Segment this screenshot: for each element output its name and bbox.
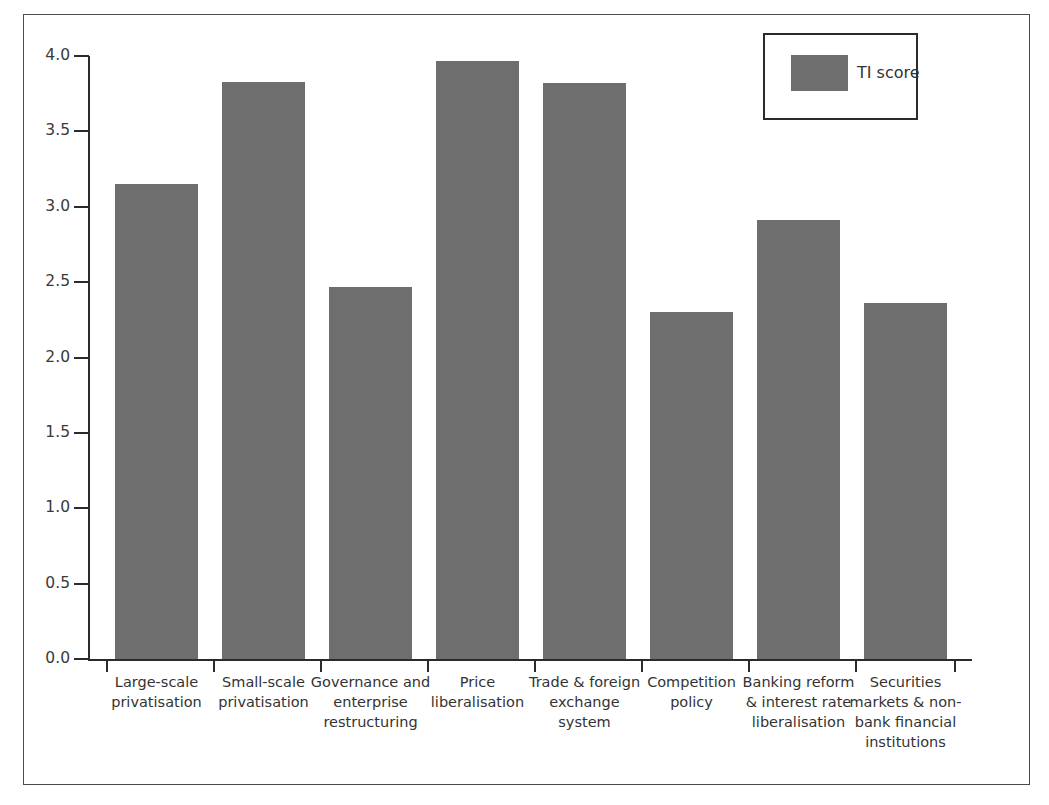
y-axis-tick — [74, 357, 89, 359]
x-axis-tick — [320, 659, 322, 672]
y-axis-tick — [74, 281, 89, 283]
y-axis-tick — [74, 658, 89, 660]
x-axis-tick — [427, 659, 429, 672]
x-axis-tick — [641, 659, 643, 672]
x-axis-category-label: Competitionpolicy — [632, 672, 752, 712]
y-axis-tick-label: 0.5 — [26, 574, 70, 592]
y-axis-tick-label: 3.5 — [26, 121, 70, 139]
x-axis-tick — [213, 659, 215, 672]
bar — [222, 82, 305, 659]
y-axis-tick — [74, 583, 89, 585]
x-axis-tick — [106, 659, 108, 672]
y-axis-tick — [74, 55, 89, 57]
x-axis-tick — [534, 659, 536, 672]
category-label-line: policy — [632, 692, 752, 712]
bar — [864, 303, 947, 659]
category-label-line: Price — [418, 672, 538, 692]
y-axis-tick-label: 0.0 — [26, 649, 70, 667]
x-axis-tick — [855, 659, 857, 672]
bar — [543, 83, 626, 659]
y-axis-tick-label: 1.0 — [26, 498, 70, 516]
category-label-line: enterprise — [311, 692, 431, 712]
category-label-line: privatisation — [97, 692, 217, 712]
category-label-line: Trade & foreign — [525, 672, 645, 692]
category-label-line: exchange system — [525, 692, 645, 732]
x-axis-category-label: Securitiesmarkets & non-bank financialin… — [846, 672, 966, 752]
y-axis-tick — [74, 432, 89, 434]
y-axis-tick — [74, 130, 89, 132]
x-axis-line — [88, 659, 972, 661]
bar — [115, 184, 198, 659]
x-axis-category-label: Large-scaleprivatisation — [97, 672, 217, 712]
bar — [436, 61, 519, 659]
category-label-line: liberalisation — [418, 692, 538, 712]
category-label-line: privatisation — [204, 692, 324, 712]
y-axis-line — [88, 56, 90, 661]
y-axis-tick — [74, 507, 89, 509]
y-axis-tick — [74, 206, 89, 208]
category-label-line: bank financial — [846, 712, 966, 732]
category-label-line: markets & non- — [846, 692, 966, 712]
bar — [329, 287, 412, 659]
category-label-line: Large-scale — [97, 672, 217, 692]
x-axis-category-label: Trade & foreignexchange system — [525, 672, 645, 732]
bar — [650, 312, 733, 659]
plot-area: 4.03.53.02.52.01.51.00.50.0 Large-scalep… — [0, 0, 1049, 805]
category-label-line: Small-scale — [204, 672, 324, 692]
x-axis-category-label: Small-scaleprivatisation — [204, 672, 324, 712]
legend: TI score — [763, 33, 918, 120]
y-axis-tick-label: 2.0 — [26, 348, 70, 366]
category-label-line: liberalisation — [739, 712, 859, 732]
category-label-line: Securities — [846, 672, 966, 692]
y-axis-tick-label: 4.0 — [26, 46, 70, 64]
x-axis-category-label: Banking reform& interest rateliberalisat… — [739, 672, 859, 732]
y-axis-tick-label: 1.5 — [26, 423, 70, 441]
x-axis-tick — [748, 659, 750, 672]
category-label-line: Competition — [632, 672, 752, 692]
figure-page: 4.03.53.02.52.01.51.00.50.0 Large-scalep… — [0, 0, 1049, 805]
bar — [757, 220, 840, 659]
x-axis-tick — [954, 659, 956, 672]
y-axis-tick-label: 2.5 — [26, 272, 70, 290]
legend-swatch-ti-score — [791, 55, 848, 91]
category-label-line: restructuring — [311, 712, 431, 732]
x-axis-category-label: Governance andenterpriserestructuring — [311, 672, 431, 732]
x-axis-category-label: Priceliberalisation — [418, 672, 538, 712]
category-label-line: Governance and — [311, 672, 431, 692]
category-label-line: & interest rate — [739, 692, 859, 712]
category-label-line: institutions — [846, 732, 966, 752]
y-axis-tick-label: 3.0 — [26, 197, 70, 215]
legend-label-ti-score: TI score — [857, 63, 920, 82]
category-label-line: Banking reform — [739, 672, 859, 692]
